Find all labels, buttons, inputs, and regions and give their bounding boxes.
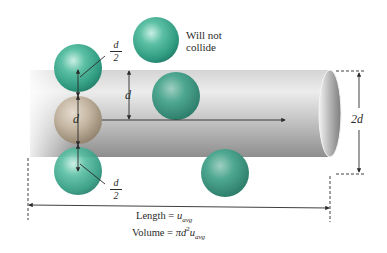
sphere-lower-right xyxy=(201,149,249,197)
diameter-label: 2d xyxy=(351,113,363,125)
sphere-inside-cylinder xyxy=(152,72,200,120)
volume-caption-expr: πd xyxy=(176,227,187,238)
volume-caption-sub: avg xyxy=(195,233,205,241)
d-center-label: d xyxy=(73,113,79,125)
half-d-bottom-numerator: d xyxy=(110,178,122,190)
volume-caption: Volume = πd2uavg xyxy=(132,225,205,241)
half-d-top-numerator: d xyxy=(110,40,122,52)
half-d-bottom-label: d 2 xyxy=(110,178,122,201)
d-side-label: d xyxy=(125,89,131,101)
volume-caption-prefix: Volume = xyxy=(132,227,176,238)
length-caption-prefix: Length = xyxy=(136,210,177,221)
will-not-collide-line2: collide xyxy=(186,41,222,53)
sphere-will-not-collide xyxy=(133,17,179,63)
half-d-top-denominator: 2 xyxy=(110,52,122,63)
will-not-collide-label: Will not collide xyxy=(186,29,222,53)
length-caption: Length = uavg xyxy=(136,210,192,224)
half-d-bottom-denominator: 2 xyxy=(110,190,122,201)
cylinder-end-face xyxy=(319,70,341,157)
will-not-collide-line1: Will not xyxy=(186,29,222,41)
length-caption-sub: avg xyxy=(182,216,192,224)
half-d-top-label: d 2 xyxy=(110,40,122,63)
